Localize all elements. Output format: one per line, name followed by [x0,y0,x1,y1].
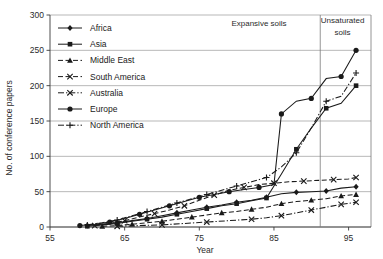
legend-label-1: Asia [90,39,107,49]
series-marker-5-2 [107,219,112,224]
series-marker-1-8 [204,206,209,211]
x-tick-label-55: 55 [45,233,55,243]
legend-marker-5 [67,106,72,111]
series-marker-1-6 [175,212,180,217]
x-tick-label-65: 65 [120,233,130,243]
y-tick-label-300: 300 [30,10,44,20]
y-tick-label-50: 50 [35,187,45,197]
annotation-text-0: Expansive soils [231,19,286,28]
series-marker-1-16 [324,106,329,111]
series-marker-5-12 [256,185,261,190]
chart-container: Expansive soilsUnsaturatedsoils 05010015… [0,0,383,259]
series-marker-1-12 [264,196,269,201]
series-marker-5-16 [309,96,314,101]
series-marker-5-10 [227,189,232,194]
legend-label-2: Middle East [90,55,135,65]
y-tick-label-200: 200 [30,81,44,91]
annotation-text-1: Unsaturated [321,16,365,25]
y-tick-label-150: 150 [30,116,44,126]
annotation-text-2: soils [335,28,351,37]
conference-papers-line-chart: Expansive soilsUnsaturatedsoils 05010015… [0,0,383,259]
series-marker-5-19 [353,48,358,53]
series-marker-5-0 [77,223,82,228]
legend-label-4: Australia [90,88,123,98]
legend-label-5: Europe [90,104,118,114]
series-marker-5-14 [279,111,284,116]
y-tick-label-100: 100 [30,151,44,161]
series-marker-1-4 [145,217,150,222]
legend-label-6: North America [90,120,144,130]
series-marker-1-10 [234,201,239,206]
x-tick-label-85: 85 [269,233,279,243]
x-tick-label-75: 75 [195,233,205,243]
plot-background [0,0,383,259]
series-marker-5-4 [137,212,142,217]
y-axis-title: No. of conference papers [4,80,14,175]
series-marker-5-18 [339,74,344,79]
y-tick-label-0: 0 [39,222,44,232]
x-axis-title: Year [196,245,213,255]
legend-marker-1 [68,42,73,47]
series-marker-1-18 [354,83,359,88]
y-tick-label-250: 250 [30,45,44,55]
x-tick-label-95: 95 [344,233,354,243]
legend-label-3: South America [90,72,146,82]
legend-label-0: Africa [90,23,112,33]
